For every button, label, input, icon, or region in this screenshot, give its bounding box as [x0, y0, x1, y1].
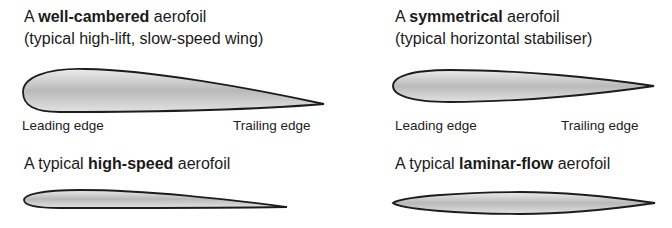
- symmetrical-aerofoil-shape: [393, 70, 654, 102]
- laminar-flow-aerofoil-shape: [393, 192, 655, 214]
- aerofoil-diagrams: [0, 0, 672, 228]
- well-cambered-aerofoil-shape: [23, 69, 324, 112]
- high-speed-aerofoil-shape: [24, 190, 287, 208]
